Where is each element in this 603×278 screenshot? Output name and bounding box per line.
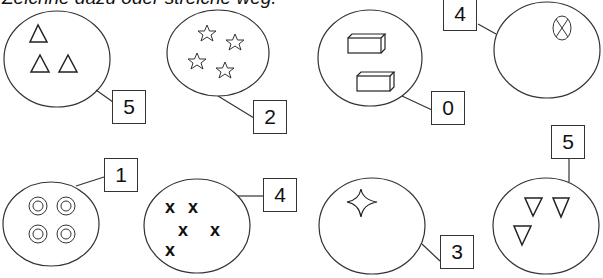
cuboid-icon-group (348, 34, 394, 91)
svg-text:x: x (178, 220, 188, 240)
star-icon-group (188, 25, 244, 78)
crossed-circle-icon (553, 16, 571, 40)
group-ellipse-x-marks (144, 179, 250, 273)
group-ellipse-triangles (4, 11, 110, 107)
x-mark-icon-group: x x x x x (165, 197, 220, 260)
target-number-box-x-marks: 4 (263, 178, 297, 212)
group-ellipse-down-triangles (493, 178, 599, 274)
target-number-box-blocks: 0 (431, 91, 465, 125)
group-ellipse-crossed-circle (494, 2, 600, 98)
double-circle-icon-group (29, 197, 75, 243)
target-number-box-crossed-circle: 4 (443, 0, 477, 31)
svg-text:x: x (210, 220, 220, 240)
svg-text:x: x (188, 197, 198, 217)
group-ellipse-stars (167, 10, 269, 96)
target-number-box-down-triangles: 5 (551, 125, 585, 159)
target-number-box-stars: 2 (253, 100, 287, 134)
svg-text:x: x (165, 197, 175, 217)
group-ellipse-sparkle (319, 178, 425, 274)
target-number-box-rings: 1 (104, 158, 138, 192)
svg-text:x: x (165, 240, 175, 260)
exercise-board: x x x x x (0, 0, 603, 278)
four-point-star-icon (347, 189, 377, 217)
triangle-down-icon-group (514, 198, 569, 245)
group-ellipse-rings (3, 182, 99, 266)
target-number-box-triangles: 5 (112, 90, 146, 124)
triangle-icon-group (30, 25, 77, 72)
target-number-box-sparkle: 3 (440, 235, 474, 269)
